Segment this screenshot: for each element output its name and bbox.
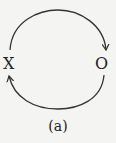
figure-caption: (a) [0, 118, 116, 134]
node-x-label: X [3, 56, 14, 72]
edge-o-to-x-arc [9, 75, 104, 109]
edge-x-to-o-arc [10, 10, 106, 50]
node-o-label: O [95, 56, 108, 72]
